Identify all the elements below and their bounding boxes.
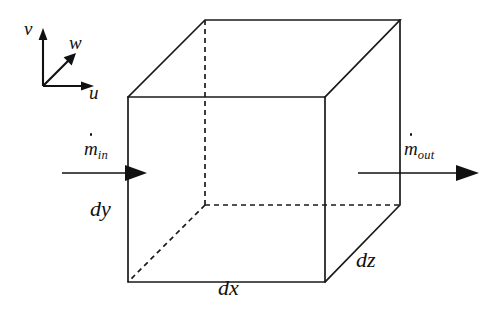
- outlet-flow-arrow: [358, 165, 479, 181]
- outlet-symbol-base: m: [404, 138, 418, 159]
- inlet-symbol-subscript: in: [98, 148, 108, 162]
- v-axis-label: v: [24, 19, 32, 38]
- u-axis-label: u: [89, 83, 99, 102]
- hidden-depth-edge-left: [128, 205, 205, 282]
- dz-dimension-label: dz: [356, 249, 376, 271]
- w-axis-label: w: [69, 33, 82, 52]
- coordinate-axes: [39, 28, 94, 91]
- outlet-symbol-subscript: out: [418, 148, 435, 162]
- cube-front-face: [128, 97, 325, 282]
- inlet-mass-flow-label: min: [84, 139, 108, 158]
- cube-hidden-edges: [128, 20, 400, 282]
- inlet-symbol-base: m: [84, 138, 98, 159]
- outlet-mass-flow-label: mout: [404, 139, 434, 158]
- m-dot-outlet: m: [404, 139, 418, 158]
- dy-dimension-label: dy: [90, 198, 111, 220]
- cube-top-face: [128, 20, 400, 97]
- v-axis-arrowhead: [39, 28, 48, 40]
- control-volume-diagram: v w u min mout dx dy dz: [0, 0, 485, 315]
- w-axis-line: [43, 60, 69, 86]
- dx-dimension-label: dx: [218, 277, 239, 299]
- inlet-arrowhead: [125, 165, 147, 181]
- inlet-flow-arrow: [62, 165, 147, 181]
- m-dot-inlet: m: [84, 139, 98, 158]
- outlet-arrowhead: [456, 165, 479, 181]
- cube-visible-edges: [128, 20, 400, 282]
